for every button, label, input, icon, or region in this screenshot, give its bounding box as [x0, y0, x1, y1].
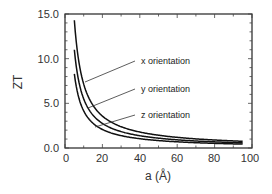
- annotation-x-orientation: x orientation: [141, 56, 190, 66]
- y-axis-title: ZT: [11, 74, 25, 89]
- x-tick-label: 20: [96, 152, 108, 164]
- y-tick-label: 15.0: [38, 8, 59, 20]
- leader-line-x: [85, 61, 135, 82]
- x-tick-label: 0: [63, 152, 69, 164]
- x-tick-label: 100: [241, 152, 259, 164]
- leader-line-y: [88, 89, 135, 108]
- plot-frame: [65, 14, 252, 148]
- annotation-z-orientation: z orientation: [141, 110, 190, 120]
- leader-line-z: [95, 115, 135, 127]
- x-tick-label: 40: [134, 152, 146, 164]
- y-tick-label: 0.0: [44, 142, 59, 154]
- axis-ticks: [65, 14, 252, 148]
- curve-x-orientation: [74, 20, 242, 141]
- chart: 0.0 5.0 10.0 15.0 0 20 40 60 80 100 ZT a…: [0, 0, 272, 194]
- y-tick-label: 10.0: [38, 53, 59, 65]
- y-tick-label: 5.0: [44, 97, 59, 109]
- x-tick-label: 60: [171, 152, 183, 164]
- annotation-y-orientation: y orientation: [141, 84, 190, 94]
- x-tick-label: 80: [208, 152, 220, 164]
- x-axis-title: a (Å): [145, 168, 171, 183]
